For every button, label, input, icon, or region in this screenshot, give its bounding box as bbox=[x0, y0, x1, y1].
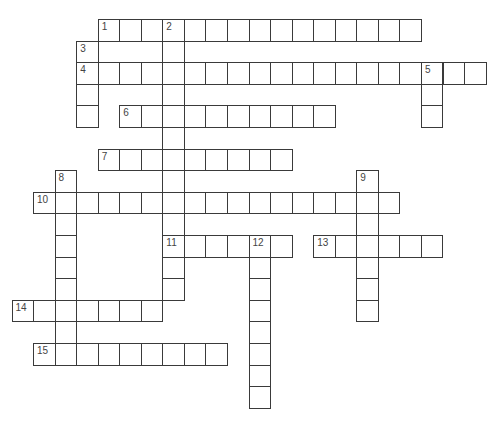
crossword-cell[interactable] bbox=[421, 84, 444, 107]
crossword-cell[interactable] bbox=[55, 235, 78, 258]
crossword-cell[interactable] bbox=[141, 343, 164, 366]
crossword-cell[interactable] bbox=[292, 19, 315, 42]
crossword-cell[interactable] bbox=[76, 105, 99, 128]
crossword-cell[interactable] bbox=[141, 192, 164, 215]
crossword-cell[interactable] bbox=[313, 105, 336, 128]
crossword-cell[interactable] bbox=[184, 235, 207, 258]
crossword-cell[interactable]: 1 bbox=[98, 19, 121, 42]
crossword-cell[interactable] bbox=[356, 62, 379, 85]
crossword-cell[interactable]: 13 bbox=[313, 235, 336, 258]
crossword-cell[interactable] bbox=[335, 235, 358, 258]
crossword-cell[interactable]: 5 bbox=[421, 62, 444, 85]
crossword-cell[interactable] bbox=[119, 149, 142, 172]
crossword-cell[interactable] bbox=[249, 365, 272, 388]
crossword-cell[interactable] bbox=[356, 235, 379, 258]
crossword-cell[interactable] bbox=[227, 19, 250, 42]
crossword-cell[interactable] bbox=[55, 278, 78, 301]
crossword-cell[interactable] bbox=[205, 19, 228, 42]
crossword-cell[interactable] bbox=[356, 213, 379, 236]
crossword-cell[interactable]: 8 bbox=[55, 170, 78, 193]
crossword-cell[interactable]: 6 bbox=[119, 105, 142, 128]
crossword-cell[interactable] bbox=[464, 62, 487, 85]
crossword-cell[interactable]: 2 bbox=[162, 19, 185, 42]
crossword-cell[interactable] bbox=[98, 343, 121, 366]
crossword-cell[interactable] bbox=[205, 105, 228, 128]
crossword-cell[interactable] bbox=[76, 343, 99, 366]
crossword-cell[interactable] bbox=[249, 278, 272, 301]
crossword-cell[interactable] bbox=[292, 105, 315, 128]
crossword-cell[interactable] bbox=[249, 105, 272, 128]
crossword-cell[interactable] bbox=[55, 321, 78, 344]
crossword-cell[interactable] bbox=[421, 105, 444, 128]
crossword-cell[interactable]: 11 bbox=[162, 235, 185, 258]
crossword-cell[interactable] bbox=[399, 235, 422, 258]
crossword-cell[interactable] bbox=[313, 19, 336, 42]
crossword-cell[interactable]: 12 bbox=[249, 235, 272, 258]
crossword-cell[interactable] bbox=[55, 192, 78, 215]
crossword-cell[interactable] bbox=[270, 149, 293, 172]
crossword-cell[interactable] bbox=[249, 257, 272, 280]
crossword-cell[interactable] bbox=[162, 343, 185, 366]
crossword-cell[interactable] bbox=[33, 300, 56, 323]
crossword-cell[interactable] bbox=[205, 235, 228, 258]
crossword-cell[interactable] bbox=[227, 62, 250, 85]
crossword-cell[interactable] bbox=[249, 149, 272, 172]
crossword-cell[interactable] bbox=[141, 62, 164, 85]
crossword-cell[interactable]: 3 bbox=[76, 41, 99, 64]
crossword-cell[interactable] bbox=[399, 62, 422, 85]
crossword-cell[interactable] bbox=[119, 343, 142, 366]
crossword-cell[interactable] bbox=[227, 149, 250, 172]
crossword-cell[interactable] bbox=[162, 41, 185, 64]
crossword-cell[interactable] bbox=[205, 62, 228, 85]
crossword-cell[interactable] bbox=[98, 62, 121, 85]
crossword-cell[interactable]: 15 bbox=[33, 343, 56, 366]
crossword-cell[interactable] bbox=[162, 84, 185, 107]
crossword-cell[interactable] bbox=[184, 149, 207, 172]
crossword-cell[interactable] bbox=[205, 149, 228, 172]
crossword-cell[interactable] bbox=[141, 19, 164, 42]
crossword-cell[interactable] bbox=[162, 149, 185, 172]
crossword-cell[interactable] bbox=[249, 343, 272, 366]
crossword-cell[interactable] bbox=[356, 300, 379, 323]
crossword-cell[interactable] bbox=[292, 62, 315, 85]
crossword-cell[interactable] bbox=[119, 300, 142, 323]
crossword-cell[interactable] bbox=[162, 127, 185, 150]
crossword-cell[interactable] bbox=[335, 19, 358, 42]
crossword-cell[interactable]: 10 bbox=[33, 192, 56, 215]
crossword-cell[interactable] bbox=[270, 105, 293, 128]
crossword-cell[interactable] bbox=[141, 149, 164, 172]
crossword-cell[interactable] bbox=[76, 300, 99, 323]
crossword-cell[interactable] bbox=[55, 300, 78, 323]
crossword-cell[interactable] bbox=[141, 300, 164, 323]
crossword-cell[interactable] bbox=[119, 62, 142, 85]
crossword-cell[interactable] bbox=[141, 105, 164, 128]
crossword-cell[interactable]: 14 bbox=[12, 300, 35, 323]
crossword-cell[interactable] bbox=[443, 62, 466, 85]
crossword-cell[interactable] bbox=[399, 19, 422, 42]
crossword-cell[interactable] bbox=[421, 235, 444, 258]
crossword-cell[interactable] bbox=[184, 105, 207, 128]
crossword-cell[interactable] bbox=[313, 62, 336, 85]
crossword-cell[interactable] bbox=[356, 278, 379, 301]
crossword-cell[interactable] bbox=[55, 343, 78, 366]
crossword-cell[interactable] bbox=[227, 192, 250, 215]
crossword-cell[interactable] bbox=[162, 105, 185, 128]
crossword-cell[interactable] bbox=[356, 19, 379, 42]
crossword-cell[interactable] bbox=[119, 19, 142, 42]
crossword-cell[interactable] bbox=[55, 213, 78, 236]
crossword-cell[interactable] bbox=[378, 235, 401, 258]
crossword-cell[interactable] bbox=[76, 84, 99, 107]
crossword-cell[interactable] bbox=[205, 192, 228, 215]
crossword-cell[interactable] bbox=[292, 192, 315, 215]
crossword-cell[interactable] bbox=[162, 62, 185, 85]
crossword-cell[interactable] bbox=[249, 19, 272, 42]
crossword-cell[interactable] bbox=[55, 257, 78, 280]
crossword-cell[interactable] bbox=[249, 386, 272, 409]
crossword-cell[interactable] bbox=[162, 192, 185, 215]
crossword-cell[interactable] bbox=[184, 19, 207, 42]
crossword-cell[interactable] bbox=[249, 321, 272, 344]
crossword-cell[interactable]: 9 bbox=[356, 170, 379, 193]
crossword-cell[interactable] bbox=[184, 62, 207, 85]
crossword-cell[interactable] bbox=[378, 62, 401, 85]
crossword-cell[interactable] bbox=[227, 235, 250, 258]
